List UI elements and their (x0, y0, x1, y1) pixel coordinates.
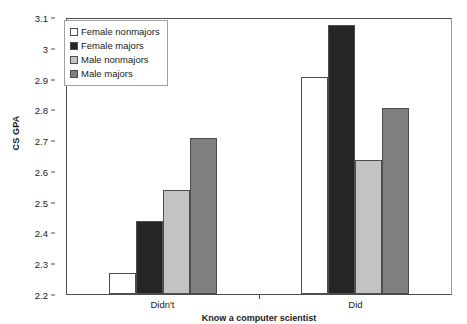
y-tick-mark (51, 110, 55, 111)
x-axis-title: Know a computer scientist (66, 313, 452, 323)
y-tick-mark (51, 48, 55, 49)
x-tick-label: Didn't (151, 299, 175, 310)
y-tick-label: 2.9 (35, 74, 48, 85)
y-tick-mark (51, 233, 55, 234)
bar (301, 77, 328, 294)
legend-swatch-icon (70, 28, 78, 36)
legend-swatch-icon (70, 70, 78, 78)
x-tick-label: Did (348, 299, 362, 310)
y-tick-label: 2.3 (35, 259, 48, 270)
bar (163, 190, 190, 294)
y-tick-label: 2.7 (35, 136, 48, 147)
y-tick-mark (51, 141, 55, 142)
legend-item: Male nonmajors (70, 53, 160, 67)
bar-chart: CS GPA 2.22.32.42.52.62.72.82.933.1 Didn… (0, 0, 467, 324)
bar (355, 160, 382, 294)
legend-item: Female majors (70, 39, 160, 53)
legend-swatch-icon (70, 42, 78, 50)
y-tick-mark (51, 18, 55, 19)
chart-legend: Female nonmajorsFemale majorsMale nonmaj… (64, 20, 168, 86)
y-tick-mark (51, 295, 55, 296)
bar (109, 273, 136, 294)
legend-item: Male majors (70, 67, 160, 81)
y-tick-label: 2.6 (35, 166, 48, 177)
y-tick-label: 3.1 (35, 13, 48, 24)
y-tick-label: 2.5 (35, 197, 48, 208)
legend-item: Female nonmajors (70, 25, 160, 39)
legend-label: Male nonmajors (81, 55, 149, 65)
legend-label: Female majors (81, 41, 144, 51)
bar (328, 25, 355, 294)
y-tick-label: 3 (43, 43, 48, 54)
y-axis-tick-labels: 2.22.32.42.52.62.72.82.933.1 (0, 0, 58, 324)
y-tick-label: 2.4 (35, 228, 48, 239)
bar (136, 221, 163, 294)
y-tick-mark (51, 202, 55, 203)
legend-swatch-icon (70, 56, 78, 64)
bar (382, 108, 409, 294)
y-tick-label: 2.2 (35, 290, 48, 301)
y-tick-mark (51, 264, 55, 265)
bar (190, 138, 217, 294)
legend-label: Female nonmajors (81, 27, 160, 37)
y-tick-mark (51, 171, 55, 172)
y-tick-label: 2.8 (35, 105, 48, 116)
y-tick-mark (51, 79, 55, 80)
legend-label: Male majors (81, 69, 133, 79)
